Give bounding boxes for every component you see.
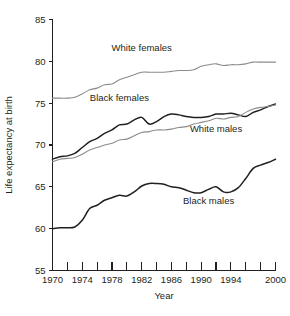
series-label-black-males: Black males	[183, 195, 234, 206]
series-line-black-males	[53, 159, 276, 228]
y-axis-title: Life expectancy at birth	[3, 96, 14, 194]
y-tick-label-60: 60	[35, 223, 46, 234]
x-tick-label-1974: 1974	[72, 274, 93, 285]
x-tick-label-1990: 1990	[191, 274, 212, 285]
series-label-black-females: Black females	[90, 92, 149, 103]
labels-group: White femalesBlack femalesWhite malesBla…	[90, 42, 243, 205]
x-tick-label-1994: 1994	[220, 274, 241, 285]
x-tick-label-1986: 1986	[161, 274, 182, 285]
x-axis-title: Year	[154, 290, 173, 301]
axes-group: 5560657075808519701974197819821986199019…	[3, 14, 286, 301]
chart-canvas: 5560657075808519701974197819821986199019…	[0, 0, 290, 316]
series-label-white-females: White females	[112, 42, 172, 53]
series-label-white-males: White males	[190, 123, 243, 134]
x-tick-label-2000: 2000	[265, 274, 286, 285]
y-tick-label-65: 65	[35, 181, 46, 192]
y-tick-label-80: 80	[35, 56, 46, 67]
x-tick-label-1978: 1978	[101, 274, 122, 285]
x-tick-label-1970: 1970	[42, 274, 63, 285]
x-tick-label-1982: 1982	[131, 274, 152, 285]
life-expectancy-chart: 5560657075808519701974197819821986199019…	[0, 0, 290, 316]
y-tick-label-70: 70	[35, 139, 46, 150]
series-group	[53, 62, 276, 229]
y-tick-label-85: 85	[35, 14, 46, 25]
y-tick-label-75: 75	[35, 98, 46, 109]
series-line-white-females	[53, 62, 276, 98]
